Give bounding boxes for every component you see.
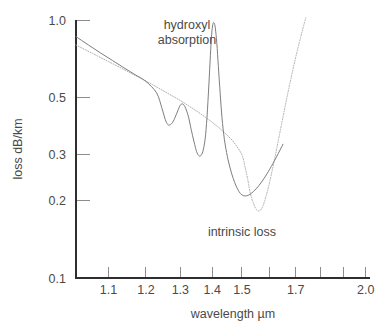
x-axis-title: wavelength µm xyxy=(190,307,275,321)
annotation-intrinsic-loss: intrinsic loss xyxy=(208,225,276,239)
x-tick-label: 1.1 xyxy=(100,283,117,297)
y-tick-label: 0.3 xyxy=(49,148,66,162)
y-axis-tick-marks xyxy=(76,20,90,278)
x-tick-label: 1.5 xyxy=(233,283,250,297)
annotation-hydroxyl-absorption-line1: hydroxyl xyxy=(164,18,211,32)
y-tick-label: 1.0 xyxy=(49,14,66,28)
y-tick-label: 0.5 xyxy=(49,91,66,105)
x-tick-label: 1.4 xyxy=(204,283,221,297)
loss-spectrum-figure: 1.00.50.30.20.1 1.11.21.31.41.51.72.0 hy… xyxy=(0,0,386,330)
curve-total-loss xyxy=(76,23,283,196)
x-tick-label: 1.7 xyxy=(287,283,304,297)
annotation-hydroxyl-absorption-line2: absorption xyxy=(158,33,216,47)
y-tick-label: 0.1 xyxy=(49,272,66,286)
y-axis-title: loss dB/km xyxy=(11,118,25,179)
x-tick-label: 1.3 xyxy=(172,283,189,297)
y-axis-tick-labels: 1.00.50.30.20.1 xyxy=(49,14,66,286)
y-tick-label: 0.2 xyxy=(49,194,66,208)
x-axis-tick-labels: 1.11.21.31.41.51.72.0 xyxy=(100,283,375,297)
x-axis-tick-marks xyxy=(108,267,365,278)
x-tick-label: 1.2 xyxy=(137,283,154,297)
chart-canvas: 1.00.50.30.20.1 1.11.21.31.41.51.72.0 hy… xyxy=(0,0,386,330)
x-tick-label: 2.0 xyxy=(357,283,374,297)
